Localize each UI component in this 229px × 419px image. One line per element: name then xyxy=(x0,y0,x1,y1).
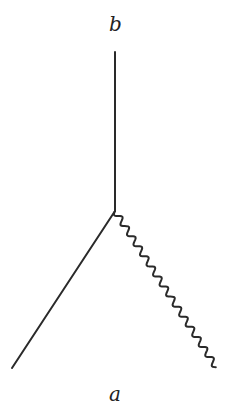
wavy-line xyxy=(114,211,216,367)
straight-diagonal-line xyxy=(12,211,115,368)
feynman-diagram xyxy=(0,0,229,419)
